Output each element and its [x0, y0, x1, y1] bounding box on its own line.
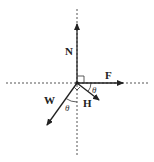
angle-arc-w-vertical	[66, 99, 77, 103]
label-n: N	[65, 45, 73, 57]
label-f: F	[105, 69, 112, 81]
label-theta-fh: θ	[92, 85, 97, 95]
label-theta-w: θ	[65, 103, 70, 113]
label-h: H	[83, 97, 92, 109]
origin-point	[75, 81, 79, 85]
label-w: W	[44, 94, 55, 106]
free-body-diagram: N F H W θ θ	[0, 0, 154, 162]
angle-arc-fh	[88, 83, 91, 92]
right-angle-mark-wh	[74, 87, 80, 90]
